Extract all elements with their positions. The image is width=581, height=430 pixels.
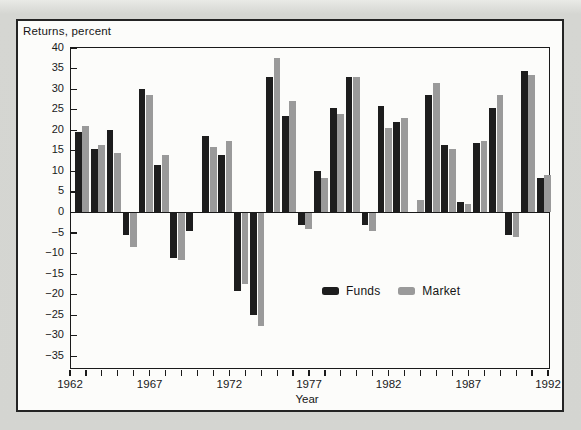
x-tick-1974 bbox=[261, 370, 262, 376]
bar-market-1973 bbox=[242, 213, 249, 285]
y-tick-label--15: −15 bbox=[26, 267, 64, 279]
y-tick-5 bbox=[71, 191, 77, 192]
x-axis-title: Year bbox=[277, 393, 337, 405]
x-tick-1990 bbox=[516, 370, 517, 376]
x-tick-1968 bbox=[165, 370, 166, 376]
x-tick-1986 bbox=[452, 370, 453, 376]
scanned-page: { "page": { "background": "#d4d5d1", "pa… bbox=[0, 0, 581, 430]
chart-panel: Returns, percent 4035302520151050−5−10−1… bbox=[16, 19, 564, 412]
x-tick-1973 bbox=[245, 370, 246, 376]
bar-market-1977 bbox=[305, 213, 312, 229]
x-tick-1983 bbox=[404, 370, 405, 376]
bar-market-1978 bbox=[321, 178, 328, 213]
x-tick-1985 bbox=[436, 370, 437, 376]
bar-funds-1963 bbox=[75, 132, 82, 212]
bar-funds-1978 bbox=[314, 171, 321, 212]
y-tick-label--10: −10 bbox=[26, 246, 64, 258]
bar-market-1964 bbox=[98, 145, 105, 213]
bar-funds-1975 bbox=[266, 77, 273, 213]
bar-funds-1980 bbox=[346, 77, 353, 213]
bar-market-1971 bbox=[210, 147, 217, 213]
x-tick-1987 bbox=[468, 370, 469, 376]
bar-funds-1973 bbox=[234, 213, 241, 291]
x-tick-1981 bbox=[372, 370, 373, 376]
bar-market-1981 bbox=[369, 213, 376, 232]
x-tick-1982 bbox=[388, 370, 389, 376]
bar-funds-1983 bbox=[393, 122, 400, 212]
bar-market-1972 bbox=[226, 141, 233, 213]
y-tick-20 bbox=[71, 130, 77, 131]
y-tick-40 bbox=[71, 47, 77, 48]
x-tick-1966 bbox=[133, 370, 134, 376]
y-tick-label-0: 0 bbox=[26, 205, 64, 217]
y-tick-label-40: 40 bbox=[26, 41, 64, 53]
y-tick-label-35: 35 bbox=[26, 61, 64, 73]
y-tick-25 bbox=[71, 109, 77, 110]
x-tick-label-1967: 1967 bbox=[128, 378, 172, 390]
y-tick--15 bbox=[71, 274, 77, 275]
y-tick-30 bbox=[71, 89, 77, 90]
bar-funds-1964 bbox=[91, 149, 98, 213]
y-tick-label--30: −30 bbox=[26, 328, 64, 340]
y-tick-label--20: −20 bbox=[26, 287, 64, 299]
y-tick--20 bbox=[71, 294, 77, 295]
bar-funds-1969 bbox=[170, 213, 177, 258]
y-tick--35 bbox=[71, 356, 77, 357]
y-tick-label--25: −25 bbox=[26, 308, 64, 320]
x-tick-1969 bbox=[181, 370, 182, 376]
y-tick-label--5: −5 bbox=[26, 226, 64, 238]
x-tick-1976 bbox=[292, 370, 293, 376]
x-tick-1984 bbox=[420, 370, 421, 376]
bar-funds-1974 bbox=[250, 213, 257, 316]
bar-funds-1977 bbox=[298, 213, 305, 225]
bar-market-1990 bbox=[513, 213, 520, 238]
bar-market-1975 bbox=[274, 58, 281, 212]
y-tick-label-30: 30 bbox=[26, 82, 64, 94]
x-tick-1965 bbox=[117, 370, 118, 376]
legend-swatch-market bbox=[398, 287, 415, 295]
y-tick-0 bbox=[71, 212, 77, 213]
x-tick-1977 bbox=[308, 370, 309, 376]
bar-funds-1972 bbox=[218, 155, 225, 213]
bar-market-1982 bbox=[385, 128, 392, 212]
x-tick-1988 bbox=[484, 370, 485, 376]
bar-funds-1971 bbox=[202, 136, 209, 212]
bar-market-1988 bbox=[481, 141, 488, 213]
legend-label-funds: Funds bbox=[346, 284, 380, 298]
y-tick-15 bbox=[71, 150, 77, 151]
bar-market-1980 bbox=[353, 77, 360, 213]
x-tick-label-1987: 1987 bbox=[446, 378, 490, 390]
bar-funds-1979 bbox=[330, 108, 337, 213]
x-tick-1971 bbox=[213, 370, 214, 376]
zero-baseline bbox=[71, 212, 549, 214]
y-tick-label-15: 15 bbox=[26, 143, 64, 155]
plot-area bbox=[70, 47, 550, 369]
bar-market-1967 bbox=[146, 95, 153, 212]
y-axis-title: Returns, percent bbox=[23, 25, 111, 37]
bar-funds-1985 bbox=[425, 95, 432, 212]
bar-funds-1986 bbox=[441, 145, 448, 213]
y-tick-label-10: 10 bbox=[26, 164, 64, 176]
y-tick-35 bbox=[71, 68, 77, 69]
bar-market-1992 bbox=[544, 175, 551, 212]
x-tick-1970 bbox=[197, 370, 198, 376]
x-tick-1978 bbox=[324, 370, 325, 376]
bar-market-1969 bbox=[178, 213, 185, 260]
bar-market-1963 bbox=[82, 126, 89, 212]
x-tick-1991 bbox=[531, 370, 532, 376]
bar-market-1974 bbox=[258, 213, 265, 326]
legend: Funds Market bbox=[322, 284, 460, 298]
legend-swatch-funds bbox=[322, 287, 339, 295]
y-tick--25 bbox=[71, 315, 77, 316]
y-tick-10 bbox=[71, 171, 77, 172]
bar-market-1985 bbox=[433, 83, 440, 213]
x-tick-1980 bbox=[356, 370, 357, 376]
x-tick-1962 bbox=[69, 370, 70, 376]
bar-market-1983 bbox=[401, 118, 408, 213]
x-tick-1975 bbox=[277, 370, 278, 376]
y-tick--5 bbox=[71, 232, 77, 233]
bar-market-1968 bbox=[162, 155, 169, 213]
bar-funds-1968 bbox=[154, 165, 161, 212]
bar-market-1986 bbox=[449, 149, 456, 213]
y-tick-label-20: 20 bbox=[26, 123, 64, 135]
